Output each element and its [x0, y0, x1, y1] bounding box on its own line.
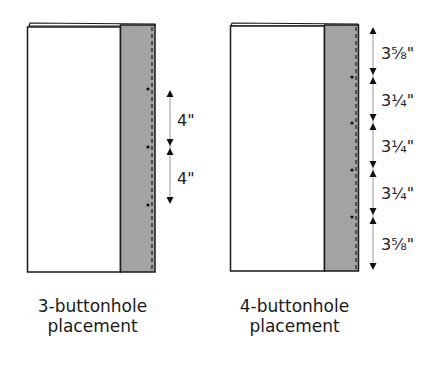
arrowhead-up-icon	[370, 77, 377, 84]
caption-three-buttonhole: 3-buttonhole placement	[20, 296, 165, 336]
garment-front-panel	[231, 26, 325, 271]
caption-line: placement	[20, 316, 165, 336]
dimension-label: 3¼"	[381, 184, 414, 203]
arrowhead-up-icon	[167, 148, 174, 155]
caption-line: 3-buttonhole	[20, 296, 165, 316]
arrowhead-up-icon	[167, 90, 174, 97]
dimension-label: 4"	[177, 111, 195, 130]
buttonhole-mark	[146, 87, 149, 90]
dimension-label: 3⅝"	[381, 235, 414, 254]
arrowhead-up-icon	[370, 27, 377, 34]
arrowhead-down-icon	[167, 197, 174, 204]
buttonhole-mark	[350, 215, 353, 218]
buttonhole-mark	[350, 75, 353, 78]
button-placket-band	[121, 25, 156, 272]
arrowhead-up-icon	[370, 123, 377, 130]
arrowhead-down-icon	[370, 161, 377, 168]
arrowhead-down-icon	[370, 114, 377, 121]
arrowhead-down-icon	[370, 208, 377, 215]
arrowhead-down-icon	[167, 139, 174, 146]
three-buttonhole-diagram: 4" 4"	[28, 23, 195, 272]
arrowhead-down-icon	[370, 68, 377, 75]
buttonhole-mark	[350, 121, 353, 124]
four-buttonhole-diagram: 3⅝" 3¼" 3¼" 3¼" 3⅝"	[231, 23, 415, 271]
button-placket-band	[325, 25, 359, 271]
dimension-label: 3⅝"	[381, 44, 414, 63]
caption-line: 4-buttonhole	[222, 296, 367, 316]
buttonhole-mark	[146, 203, 149, 206]
dimension-arrows	[167, 90, 174, 204]
dimension-label: 3¼"	[381, 137, 414, 156]
garment-front-panel	[28, 27, 121, 272]
arrowhead-up-icon	[370, 170, 377, 177]
dimension-label: 4"	[177, 169, 195, 188]
buttonhole-mark	[146, 145, 149, 148]
buttonhole-mark	[350, 168, 353, 171]
dimension-label: 3¼"	[381, 91, 414, 110]
dimension-arrows	[370, 27, 377, 270]
arrowhead-up-icon	[370, 217, 377, 224]
arrowhead-down-icon	[370, 263, 377, 270]
caption-line: placement	[222, 316, 367, 336]
caption-four-buttonhole: 4-buttonhole placement	[222, 296, 367, 336]
